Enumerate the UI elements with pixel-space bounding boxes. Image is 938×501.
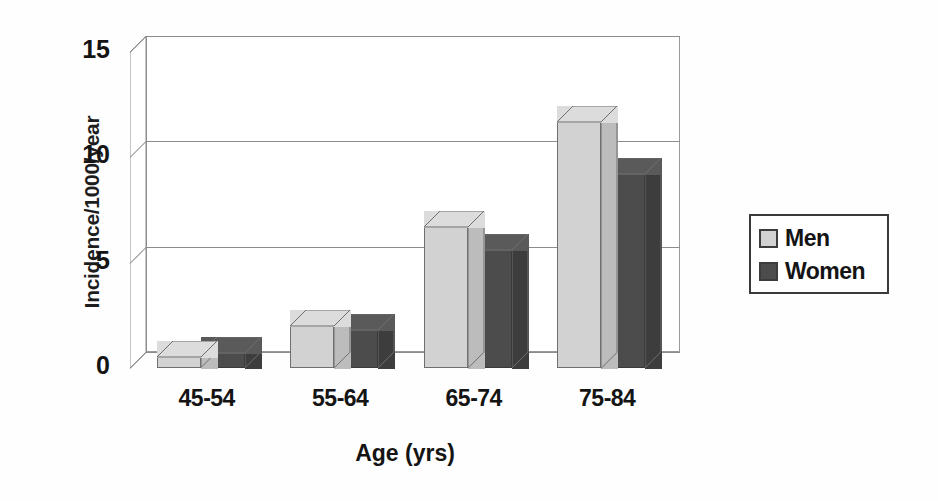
bar-front-face	[290, 326, 334, 368]
bar-front-face	[157, 357, 201, 368]
bar	[424, 227, 468, 368]
legend-entry: Women	[759, 255, 887, 288]
y-axis-tick-label: 15	[66, 37, 110, 62]
bar-side-face	[512, 234, 529, 369]
plot-area	[130, 36, 680, 366]
bar	[290, 326, 334, 368]
x-axis-tick-label: 75-84	[527, 385, 687, 412]
y-axis-tick-label: 5	[66, 248, 110, 273]
axis-left-wall	[130, 36, 147, 368]
bar	[157, 357, 201, 368]
bar-front-face	[424, 227, 468, 368]
bar-group	[424, 36, 512, 352]
legend-swatch-icon	[759, 229, 778, 248]
bar-group	[557, 36, 645, 352]
bar-chart-figure: Incidence/1000/year 051015 45-5455-6465-…	[0, 0, 938, 501]
y-axis-tick-labels: 051015	[62, 0, 110, 501]
bar-side-face	[601, 106, 618, 369]
y-axis-tick-label: 10	[66, 142, 110, 167]
bar-side-face	[468, 211, 485, 369]
bar-group	[157, 36, 245, 352]
legend-swatch-icon	[759, 262, 778, 281]
legend-label: Women	[785, 258, 865, 285]
bar-top-face	[157, 341, 218, 358]
legend-label: Men	[785, 225, 830, 252]
bar-side-face	[645, 158, 662, 369]
bar-top-face	[424, 211, 485, 228]
bar	[557, 122, 601, 368]
bar-top-face	[290, 310, 351, 327]
y-axis-tick-label: 0	[66, 353, 110, 378]
bar-group	[290, 36, 378, 352]
chart-legend: MenWomen	[749, 214, 889, 294]
bar-front-face	[557, 122, 601, 368]
legend-entry: Men	[759, 222, 887, 255]
x-axis-title: Age (yrs)	[130, 440, 680, 467]
bar-top-face	[557, 106, 618, 123]
